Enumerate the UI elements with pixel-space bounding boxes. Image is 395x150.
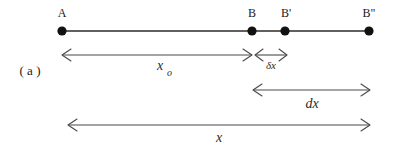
dimension-x0-label: x [156,58,164,73]
figure-container: A B B' B" x o δx dx [0,0,395,150]
dimension-x0: x o [62,49,252,78]
dimension-dx: dx [253,84,370,111]
panel-label: ( a ) [20,63,41,78]
dimension-x-label: x [215,130,223,145]
point-dot-B-double-prime [364,26,373,35]
dimension-x0-subscript: o [167,67,172,78]
point-label-B: B [248,6,256,20]
dimension-delta-x-label: δx [266,59,276,71]
point-dot-B [247,26,256,35]
dimension-x: x [68,119,370,145]
dimension-delta-x: δx [255,49,287,71]
dimension-dx-label: dx [305,96,319,111]
point-label-B-prime: B' [281,6,291,20]
point-label-B-double-prime: B" [363,6,376,20]
point-dot-A [57,26,66,35]
point-label-A: A [58,6,67,20]
diagram-canvas: A B B' B" x o δx dx [0,0,395,150]
point-dot-B-prime [280,26,289,35]
